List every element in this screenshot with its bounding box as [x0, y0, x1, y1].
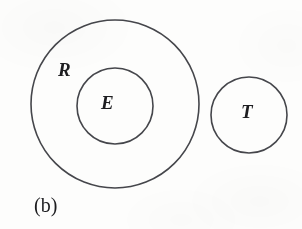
- set-circle-r: [31, 20, 199, 188]
- set-label-t: T: [241, 102, 253, 121]
- set-label-r: R: [58, 60, 71, 79]
- figure-panel-b: R E T (b): [0, 0, 302, 229]
- figure-caption: (b): [34, 195, 57, 215]
- set-label-e: E: [101, 93, 114, 112]
- set-circle-e: [77, 68, 153, 144]
